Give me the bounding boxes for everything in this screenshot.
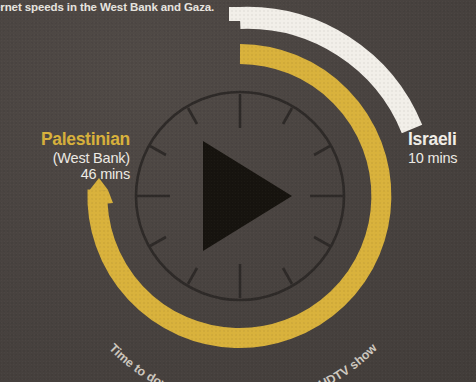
caption-text: Time to download a 750 MB 45 minute HDTV… bbox=[106, 341, 380, 382]
label-palestinian-value: 46 mins bbox=[2, 166, 130, 182]
label-israeli: Israeli 10 mins bbox=[408, 130, 476, 166]
caption-arc: Time to download a 750 MB 45 minute HDTV… bbox=[0, 0, 476, 382]
label-palestinian-region: (West Bank) bbox=[2, 150, 130, 166]
label-palestinian-title: Palestinian bbox=[2, 130, 130, 150]
label-israeli-value: 10 mins bbox=[408, 150, 476, 166]
label-israeli-title: Israeli bbox=[408, 130, 476, 150]
headline-text: ernet speeds in the West Bank and Gaza. bbox=[0, 1, 294, 13]
infographic-stage: ernet speeds in the West Bank and Gaza. bbox=[0, 0, 476, 382]
label-palestinian: Palestinian (West Bank) 46 mins bbox=[2, 130, 130, 182]
